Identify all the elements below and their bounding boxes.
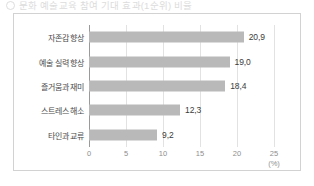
page-heading-text: 문화 예술교육 참여 기대 효과(1순위) 비율 <box>19 0 193 12</box>
bar[interactable] <box>89 105 180 116</box>
bar-row: 즐거움과 재미18,4 <box>89 74 274 98</box>
page-heading: 문화 예술교육 참여 기대 효과(1순위) 비율 <box>6 0 193 12</box>
bar-rows: 자존감 향상20,9예술 실력 향상19,0즐거움과 재미18,4스트레스 해소… <box>89 25 274 147</box>
category-label: 즐거움과 재미 <box>41 80 84 91</box>
bar[interactable] <box>89 32 244 43</box>
category-label: 스트레스 해소 <box>41 105 84 116</box>
bar-chart: 자존감 향상20,9예술 실력 향상19,0즐거움과 재미18,4스트레스 해소… <box>14 14 300 170</box>
x-axis-unit-label: (%) <box>268 159 280 168</box>
bar-value-label: 12,3 <box>185 105 201 115</box>
bar-value-label: 18,4 <box>230 81 246 91</box>
x-tick-label: 10 <box>159 149 167 158</box>
x-tick-label: 0 <box>87 149 91 158</box>
x-tick-label: 5 <box>124 149 128 158</box>
category-label: 타인과 교류 <box>48 129 84 140</box>
bar-row: 예술 실력 향상19,0 <box>89 49 274 73</box>
bar[interactable] <box>89 80 225 91</box>
circled-number-icon <box>6 1 15 10</box>
bar-value-label: 19,0 <box>235 57 251 67</box>
x-tick-label: 20 <box>233 149 241 158</box>
bar-row: 타인과 교류9,2 <box>89 123 274 147</box>
bar[interactable] <box>89 56 230 67</box>
x-axis: 0510152025(%) <box>89 147 274 161</box>
x-tick-label: 15 <box>196 149 204 158</box>
gridline <box>274 25 275 147</box>
x-tick-label: 25 <box>270 149 278 158</box>
chart-frame: 자존감 향상20,9예술 실력 향상19,0즐거움과 재미18,4스트레스 해소… <box>13 13 301 171</box>
bar-value-label: 9,2 <box>162 130 174 140</box>
category-label: 자존감 향상 <box>48 32 84 43</box>
bar-row: 자존감 향상20,9 <box>89 25 274 49</box>
bar-value-label: 20,9 <box>249 32 265 42</box>
category-label: 예술 실력 향상 <box>39 56 84 67</box>
bar[interactable] <box>89 129 157 140</box>
plot-area: 자존감 향상20,9예술 실력 향상19,0즐거움과 재미18,4스트레스 해소… <box>89 25 274 147</box>
bar-row: 스트레스 해소12,3 <box>89 98 274 122</box>
